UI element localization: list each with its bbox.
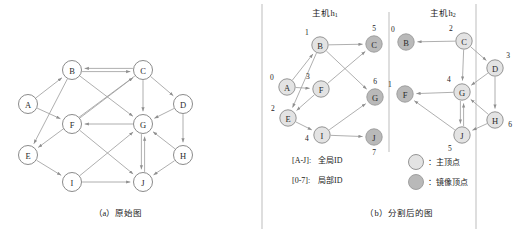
node-local-id-D: 3 (506, 51, 510, 60)
node-C: C5 (366, 24, 382, 52)
node-label-I: I (71, 178, 74, 188)
node-local-id-C: 5 (372, 24, 376, 33)
panel-a-edges (34, 68, 183, 182)
host2-edges (414, 41, 495, 130)
edge-I-G (329, 104, 366, 130)
figure-root: ABCDEFGHIJ A0B1C5F3E2G6I4J7B0C2D3F1G4H6J… (0, 0, 520, 233)
node-J: J (134, 173, 153, 192)
node-label-B: B (69, 66, 75, 76)
edge-A-F (37, 108, 60, 119)
node-label-F: F (403, 90, 408, 100)
edge-C-D (471, 47, 487, 61)
node-G: G6 (367, 77, 383, 105)
node-A: A0 (270, 73, 295, 95)
edge-A-B (292, 54, 313, 80)
node-label-E: E (25, 151, 30, 161)
node-label-B: B (403, 38, 409, 48)
node-J: J7 (366, 129, 382, 157)
node-local-id-G: 4 (447, 75, 451, 84)
node-label-C: C (371, 40, 377, 50)
node-local-id-J: 7 (372, 148, 376, 157)
node-local-id-B: 1 (305, 28, 309, 37)
legend-swatch-mirror (409, 175, 424, 190)
annotation-text-1: 局部ID (318, 175, 343, 185)
node-H: H6 (487, 112, 513, 129)
node-D: D3 (487, 51, 511, 76)
edge-C-G (462, 50, 463, 81)
edge-I-J (331, 135, 363, 136)
node-label-E: E (285, 114, 290, 124)
panel-b-legend: [A-J]:全局ID[0-7]:局部ID：主顶点：镜像顶点 (292, 155, 468, 190)
node-label-D: D (492, 64, 498, 74)
node-E: E (19, 146, 38, 165)
edge-B-E (293, 53, 317, 107)
edge-F-C (328, 51, 366, 83)
annotation-text-0: 全局ID (318, 155, 343, 165)
edge-B-G (326, 51, 366, 89)
node-local-id-A: 0 (270, 73, 274, 82)
host1-edges (292, 44, 366, 136)
node-label-A: A (25, 100, 32, 110)
panel-a-nodes: ABCDEFGHIJ (19, 61, 193, 192)
node-J: J5 (448, 127, 470, 153)
annotation-key-1: [0-7]: (292, 176, 310, 185)
edge-F-E (297, 95, 315, 111)
edge-H-J (472, 124, 487, 131)
edge-D-G (154, 109, 174, 119)
legend-label-main: ：主顶点 (428, 157, 460, 167)
graph-partition-figure: ABCDEFGHIJ A0B1C5F3E2G6I4J7B0C2D3F1G4H6J… (0, 0, 520, 233)
node-I: I (63, 173, 82, 192)
node-label-G: G (459, 88, 465, 98)
host1-nodes: A0B1C5F3E2G6I4J7 (270, 24, 383, 156)
node-I: I4 (305, 127, 330, 143)
node-label-C: C (140, 66, 146, 76)
node-B: B1 (305, 28, 328, 53)
node-local-id-G: 6 (373, 77, 377, 86)
edge-F-C (80, 78, 133, 118)
node-label-B: B (317, 41, 323, 51)
node-label-I: I (321, 131, 324, 141)
node-label-F: F (319, 85, 324, 95)
node-local-id-F: 1 (388, 80, 392, 89)
node-E: E2 (271, 104, 296, 126)
node-local-id-E: 2 (271, 104, 275, 113)
node-C: C2 (449, 24, 472, 49)
host2-title: 主机h2 (430, 8, 455, 18)
edge-F-J (80, 130, 133, 174)
node-local-id-B: 0 (391, 25, 395, 34)
node-local-id-I: 4 (305, 134, 309, 143)
node-label-H: H (492, 116, 498, 126)
edge-A-B (36, 78, 62, 98)
node-local-id-C: 2 (449, 24, 453, 33)
panel-a-caption: （a）原始图 (94, 208, 143, 218)
node-label-H: H (180, 151, 186, 161)
legend-swatch-main (409, 155, 424, 170)
edge-C-B (417, 41, 455, 42)
edge-D-G (471, 73, 488, 85)
edge-E-I (296, 122, 312, 130)
legend-label-mirror: ：镜像顶点 (428, 177, 468, 187)
node-A: A (19, 95, 38, 114)
edge-H-G (153, 132, 175, 149)
node-B: B0 (391, 25, 414, 50)
node-label-G: G (372, 93, 378, 103)
edge-E-I (37, 160, 62, 175)
node-B: B (63, 61, 82, 80)
edge-G-F (416, 92, 453, 93)
node-F: F1 (388, 80, 413, 102)
edge-B-E (34, 79, 68, 144)
node-C: C (134, 61, 153, 80)
node-local-id-H: 6 (508, 120, 512, 129)
node-label-F: F (70, 120, 75, 130)
node-D: D (174, 95, 193, 114)
node-label-G: G (140, 120, 146, 130)
annotation-key-0: [A-J]: (292, 156, 311, 165)
node-F: F (63, 115, 82, 134)
node-local-id-J: 5 (448, 144, 452, 153)
edge-I-G (80, 132, 133, 176)
node-G: G (134, 115, 153, 134)
edge-H-G (471, 99, 489, 114)
node-label-D: D (180, 100, 186, 110)
edge-B-C (329, 44, 363, 45)
host2-nodes: B0C2D3F1G4H6J5 (388, 24, 512, 152)
